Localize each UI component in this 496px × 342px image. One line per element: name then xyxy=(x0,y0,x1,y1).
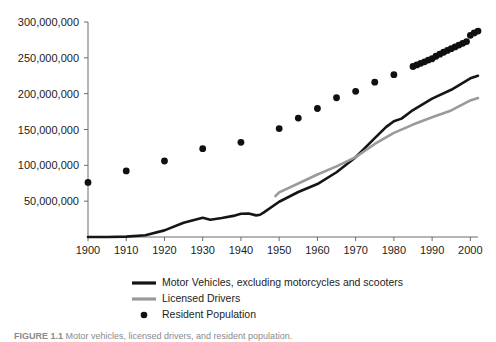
data-point-dot xyxy=(475,28,482,35)
data-point-dot xyxy=(463,38,470,45)
legend-item-label: Licensed Drivers xyxy=(162,292,240,304)
y-axis-tick-label: 150,000,000 xyxy=(18,124,79,136)
legend-item-label: Resident Population xyxy=(162,308,256,320)
data-point-dot xyxy=(85,179,92,186)
data-point-dot xyxy=(199,145,206,152)
motor-vehicles-population-chart: 50,000,000100,000,000150,000,000200,000,… xyxy=(0,0,496,342)
data-point-dot xyxy=(314,105,321,112)
legend-item-label: Motor Vehicles, excluding motorcycles an… xyxy=(162,276,403,288)
figure-container: 50,000,000100,000,000150,000,000200,000,… xyxy=(0,0,496,342)
y-axis-tick-label: 200,000,000 xyxy=(18,88,79,100)
x-axis-tick-label: 1920 xyxy=(152,244,176,256)
data-point-dot xyxy=(295,115,302,122)
x-axis-tick-label: 1910 xyxy=(114,244,138,256)
x-axis-tick-label: 1900 xyxy=(76,244,100,256)
x-axis-tick-label: 1990 xyxy=(420,244,444,256)
y-axis-tick-label: 300,000,000 xyxy=(18,16,79,28)
data-point-dot xyxy=(371,79,378,86)
data-point-dot xyxy=(123,168,130,175)
legend-item: Motor Vehicles, excluding motorcycles an… xyxy=(132,276,403,288)
data-point-dot xyxy=(161,158,168,165)
x-axis-tick-label: 1960 xyxy=(305,244,329,256)
legend-dot-marker xyxy=(141,312,148,319)
y-axis-tick-label: 100,000,000 xyxy=(18,159,79,171)
data-point-dot xyxy=(333,94,340,101)
data-point-dot xyxy=(238,139,245,146)
x-axis-tick-label: 1950 xyxy=(267,244,291,256)
x-axis-tick-label: 1980 xyxy=(382,244,406,256)
data-point-dot xyxy=(276,125,283,132)
x-axis-tick-label: 1930 xyxy=(190,244,214,256)
caption-prefix: FIGURE 1.1 Motor vehicles, licensed driv… xyxy=(14,331,292,341)
figure-caption: FIGURE 1.1 Motor vehicles, licensed driv… xyxy=(14,331,292,341)
y-axis-tick-label: 50,000,000 xyxy=(24,195,79,207)
y-axis-tick-label: 250,000,000 xyxy=(18,52,79,64)
data-point-dot xyxy=(352,88,359,95)
data-point-dot xyxy=(390,71,397,78)
x-axis-tick-label: 1940 xyxy=(229,244,253,256)
x-axis-tick-labels: 1900191019201930194019501960197019801990… xyxy=(76,244,483,256)
x-axis-tick-label: 2000 xyxy=(458,244,482,256)
x-axis-tick-label: 1970 xyxy=(343,244,367,256)
